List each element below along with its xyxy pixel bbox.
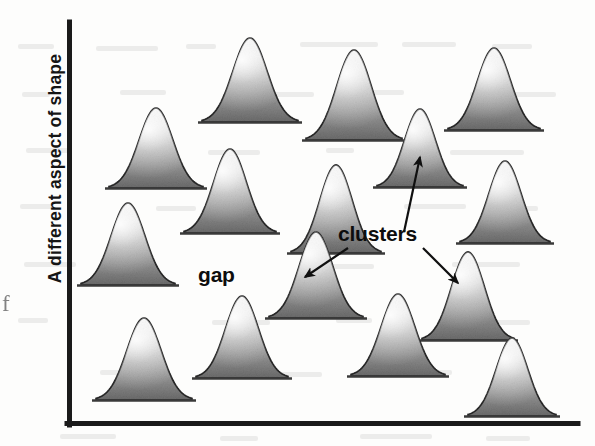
distribution-bump [92, 318, 196, 401]
leader-arrow [423, 248, 458, 283]
distribution-bump [198, 38, 302, 123]
distribution-bump [302, 50, 406, 141]
figure-canvas: f A different aspect of shape [0, 0, 595, 446]
distribution-bump [444, 48, 544, 131]
distribution-bump [105, 108, 207, 189]
distribution-bump [456, 161, 554, 244]
distribution-bump [373, 109, 467, 188]
distribution-bump [77, 203, 179, 286]
distribution-bump [192, 296, 292, 379]
distribution-markers [77, 38, 560, 417]
annotation-gap: gap [198, 263, 235, 287]
distribution-bump [418, 252, 518, 341]
distribution-bump [464, 338, 560, 417]
annotation-clusters: clusters [338, 222, 417, 246]
plot-area [0, 0, 595, 446]
distribution-bump [180, 149, 280, 234]
